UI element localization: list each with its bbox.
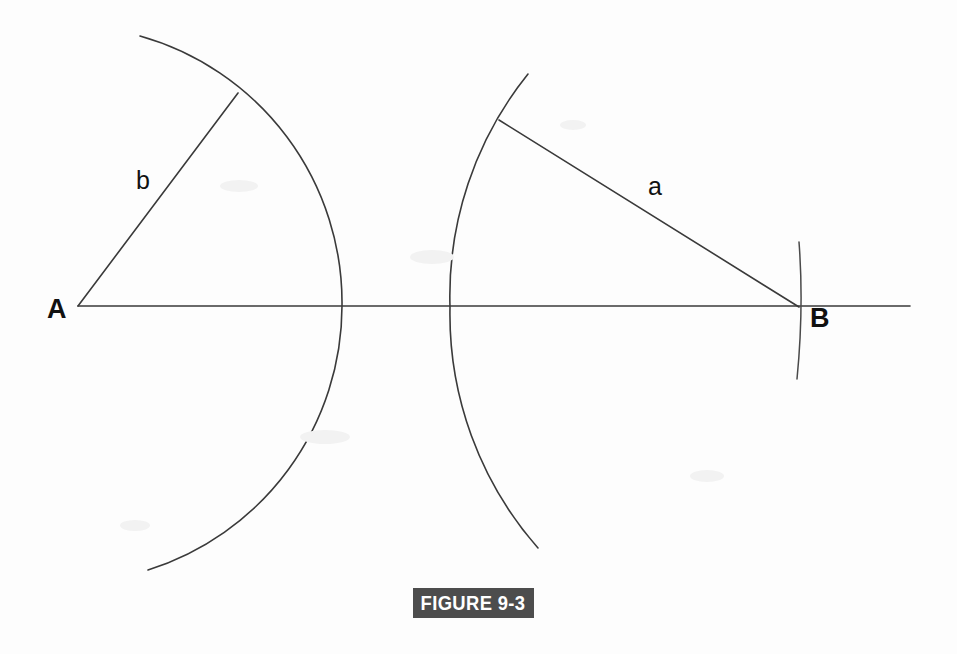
- geometry-drawing: A B b a: [0, 0, 957, 654]
- label-side-a: a: [648, 172, 662, 200]
- figure-caption-text: FIGURE 9-3: [421, 592, 526, 615]
- arc-at-b: [797, 242, 801, 379]
- label-vertex-b: B: [810, 303, 830, 333]
- side-b-segment: [78, 93, 238, 306]
- figure-caption-box: FIGURE 9-3: [413, 588, 534, 618]
- label-vertex-a: A: [47, 294, 67, 324]
- figure-container: A B b a FIGURE 9-3: [0, 0, 957, 654]
- side-a-segment: [499, 120, 799, 307]
- arc-from-b: [450, 74, 538, 548]
- arc-from-a: [140, 36, 342, 570]
- label-side-b: b: [136, 166, 150, 194]
